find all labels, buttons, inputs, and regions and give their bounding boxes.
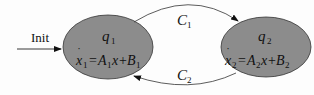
transition-c2: C 2 — [134, 67, 236, 85]
svg-text:x: x — [75, 53, 83, 68]
svg-text:1: 1 — [111, 36, 116, 46]
svg-text:2: 2 — [232, 60, 237, 70]
svg-text:1: 1 — [107, 60, 112, 70]
svg-text:2: 2 — [285, 60, 290, 70]
svg-text:+: + — [268, 53, 276, 68]
svg-text:A: A — [97, 53, 107, 68]
svg-text:2: 2 — [267, 36, 272, 46]
state-q1: q 1 ˙ x 1 = A 1 x + B 1 — [63, 15, 153, 79]
svg-text:2: 2 — [187, 75, 192, 85]
transition-c1: C 1 — [134, 5, 238, 30]
state-q2-name: q — [258, 28, 266, 44]
init-transition: Init — [17, 30, 61, 49]
svg-text:=: = — [238, 53, 246, 68]
svg-text:B: B — [127, 53, 136, 68]
svg-text:2: 2 — [256, 60, 261, 70]
svg-text:x: x — [111, 53, 119, 68]
state-q1-name: q — [102, 28, 110, 44]
svg-text:=: = — [89, 53, 97, 68]
svg-text:1: 1 — [187, 20, 192, 30]
svg-text:1: 1 — [83, 60, 88, 70]
svg-text:1: 1 — [136, 60, 141, 70]
state-q2: q 2 ˙ x 2 = A 2 x + B 2 — [221, 17, 311, 77]
svg-text:x: x — [224, 53, 232, 68]
svg-text:B: B — [276, 53, 285, 68]
hybrid-automaton-diagram: Init q 1 ˙ x 1 = A 1 x + B 1 q 2 ˙ x 2 =… — [0, 0, 314, 95]
svg-text:+: + — [119, 53, 127, 68]
init-label: Init — [31, 30, 49, 45]
svg-text:x: x — [260, 53, 268, 68]
svg-text:A: A — [246, 53, 256, 68]
